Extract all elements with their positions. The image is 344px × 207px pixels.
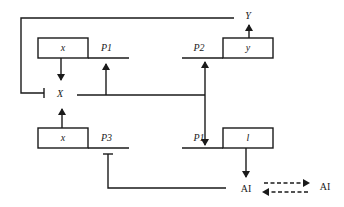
gene-l-label: l bbox=[247, 132, 250, 143]
node-ai-extracellular: AI bbox=[320, 181, 331, 192]
promoter-p1-bottom-label: P1 bbox=[192, 132, 204, 143]
gene-y: y P2 Y bbox=[182, 10, 273, 58]
gene-x-top-label: x bbox=[60, 42, 66, 53]
node-ai-intracellular: AI bbox=[241, 183, 252, 194]
gene-x-top: x P1 bbox=[38, 38, 129, 80]
gene-x-bottom-label: x bbox=[60, 132, 66, 143]
regulatory-circuit-diagram: x P1 X y P2 Y x P3 l P1 AI bbox=[0, 0, 344, 207]
promoter-p3-label: P3 bbox=[100, 132, 112, 143]
gene-x-bottom: x P3 bbox=[38, 109, 129, 148]
promoter-p2-label: P2 bbox=[192, 42, 204, 53]
node-x-label: X bbox=[56, 88, 64, 99]
promoter-p1-top-label: P1 bbox=[100, 42, 112, 53]
ai-inhibits-p3 bbox=[103, 154, 226, 188]
gene-y-label: y bbox=[245, 42, 251, 53]
gene-l: l P1 bbox=[182, 128, 273, 177]
node-y-label: Y bbox=[245, 10, 252, 21]
